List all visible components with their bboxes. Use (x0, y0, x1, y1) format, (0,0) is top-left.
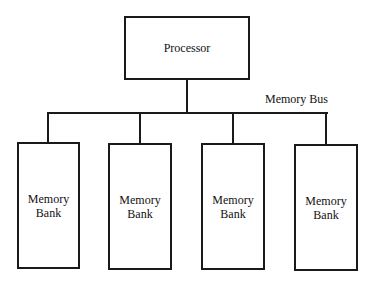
memory-bank-3-line2: Bank (212, 207, 253, 221)
memory-bank-3: Memory Bank (201, 143, 265, 270)
memory-bank-1-line2: Bank (28, 206, 69, 220)
bank-connector-4 (325, 112, 327, 145)
bank-connector-2 (139, 112, 141, 144)
memory-bank-3-line1: Memory (212, 193, 253, 207)
memory-bank-1-line1: Memory (28, 192, 69, 206)
memory-bus-line (47, 112, 328, 114)
memory-bank-4-line1: Memory (305, 194, 346, 208)
memory-bus-label: Memory Bus (265, 92, 328, 107)
processor-connector (186, 79, 188, 113)
processor-label: Processor (164, 41, 211, 55)
processor-box: Processor (124, 16, 250, 80)
memory-bank-4: Memory Bank (294, 144, 358, 271)
bank-connector-3 (232, 112, 234, 144)
memory-bank-2: Memory Bank (108, 143, 172, 270)
memory-bank-1: Memory Bank (17, 142, 80, 269)
bank-connector-1 (47, 112, 49, 143)
memory-bank-2-line2: Bank (119, 207, 160, 221)
memory-bank-4-line2: Bank (305, 208, 346, 222)
memory-bank-2-line1: Memory (119, 193, 160, 207)
